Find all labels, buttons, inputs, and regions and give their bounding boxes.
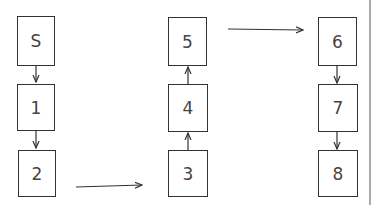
node-s: S bbox=[17, 16, 55, 66]
page-divider bbox=[369, 0, 371, 205]
node-7: 7 bbox=[318, 84, 358, 132]
node-5: 5 bbox=[168, 17, 207, 66]
arrow-2-to-3 bbox=[76, 185, 142, 187]
node-2: 2 bbox=[18, 150, 56, 197]
node-3: 3 bbox=[168, 150, 208, 197]
node-1: 1 bbox=[17, 84, 55, 131]
node-6: 6 bbox=[318, 17, 357, 66]
node-4: 4 bbox=[168, 84, 208, 132]
node-8: 8 bbox=[318, 150, 358, 197]
arrow-5-to-6 bbox=[228, 29, 303, 30]
